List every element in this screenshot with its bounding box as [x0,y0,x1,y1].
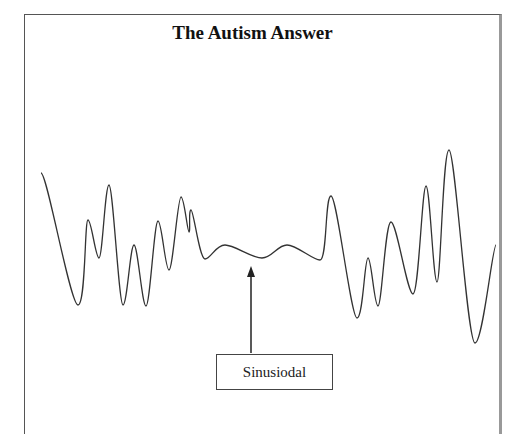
arrow-up-icon [247,266,255,353]
sinusoidal-label: Sinusiodal [243,364,306,381]
sinusoidal-label-box: Sinusiodal [216,354,333,390]
waveform-line [41,150,496,343]
